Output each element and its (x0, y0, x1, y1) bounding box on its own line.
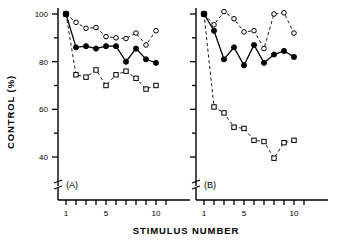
marker-open-circle (282, 11, 287, 16)
x-axis-title: STIMULUS NUMBER (133, 225, 239, 236)
marker-filled-circle (251, 42, 256, 47)
panel-b: 1510(B) (190, 8, 328, 218)
marker-open-square (84, 75, 88, 79)
series-line-open-square (204, 14, 294, 158)
marker-filled-circle (143, 57, 148, 62)
marker-open-circle (272, 12, 277, 17)
marker-open-square (154, 83, 158, 87)
marker-open-square (104, 83, 108, 87)
marker-filled-circle (123, 59, 128, 64)
marker-filled-circle (231, 45, 236, 50)
marker-open-square (262, 139, 266, 143)
marker-filled-circle (241, 63, 246, 68)
series-line-open-circle (66, 14, 156, 45)
marker-open-square (242, 126, 246, 130)
marker-open-circle (104, 34, 109, 39)
x-tick-label-10: 10 (290, 209, 299, 218)
figure-container: 1510(A)1510(B)100806040CONTROL (%)STIMUL… (0, 0, 348, 242)
x-tick-label-1: 1 (202, 209, 207, 218)
marker-filled-circle (133, 46, 138, 51)
y-tick-label-40: 40 (39, 153, 48, 162)
marker-filled-circle (211, 28, 216, 33)
marker-open-circle (84, 26, 89, 31)
chart-svg: 1510(A)1510(B)100806040CONTROL (%)STIMUL… (0, 0, 348, 242)
marker-filled-circle (93, 46, 98, 51)
origin-marker (63, 11, 69, 17)
marker-filled-circle (73, 45, 78, 50)
marker-open-square (124, 69, 128, 73)
y-tick-label-60: 60 (39, 105, 48, 114)
marker-open-square (222, 111, 226, 115)
series-line-open-square (66, 14, 156, 89)
series-line-filled-circle (66, 14, 156, 63)
marker-open-circle (74, 20, 79, 25)
x-tick-label-5: 5 (104, 209, 109, 218)
series-line-open-circle (204, 12, 294, 49)
marker-filled-circle (281, 48, 286, 53)
marker-filled-circle (221, 57, 226, 62)
marker-open-circle (114, 36, 119, 41)
marker-open-circle (124, 36, 129, 41)
marker-open-square (292, 138, 296, 142)
y-tick-label-100: 100 (35, 10, 49, 19)
y-axis-title: CONTROL (%) (5, 75, 16, 149)
marker-open-circle (134, 31, 139, 36)
marker-open-square (74, 73, 78, 77)
marker-open-square (144, 87, 148, 91)
marker-open-circle (232, 16, 237, 21)
marker-filled-circle (103, 44, 108, 49)
marker-open-square (114, 73, 118, 77)
marker-open-square (94, 68, 98, 72)
x-tick-label-1: 1 (64, 209, 69, 218)
marker-open-square (252, 138, 256, 142)
marker-open-square (212, 105, 216, 109)
panel-a: 1510(A) (52, 8, 190, 218)
marker-open-circle (154, 28, 159, 33)
marker-open-circle (252, 28, 257, 33)
panel-label-a: (A) (66, 180, 78, 190)
marker-open-circle (242, 30, 247, 35)
marker-open-square (232, 125, 236, 129)
series-line-filled-circle (204, 14, 294, 65)
marker-filled-circle (83, 44, 88, 49)
marker-open-circle (262, 46, 267, 51)
marker-open-circle (212, 22, 217, 27)
x-tick-label-10: 10 (152, 209, 161, 218)
marker-open-square (134, 76, 138, 80)
panel-label-b: (B) (204, 180, 216, 190)
marker-filled-circle (271, 52, 276, 57)
marker-filled-circle (291, 54, 296, 59)
marker-open-square (272, 156, 276, 160)
marker-filled-circle (261, 60, 266, 65)
marker-open-circle (292, 31, 297, 36)
marker-open-circle (144, 43, 149, 48)
marker-open-circle (94, 25, 99, 30)
marker-open-circle (222, 9, 227, 14)
y-tick-label-80: 80 (39, 58, 48, 67)
marker-open-square (282, 141, 286, 145)
origin-marker (201, 11, 207, 17)
marker-filled-circle (113, 44, 118, 49)
marker-filled-circle (153, 60, 158, 65)
x-tick-label-5: 5 (242, 209, 247, 218)
